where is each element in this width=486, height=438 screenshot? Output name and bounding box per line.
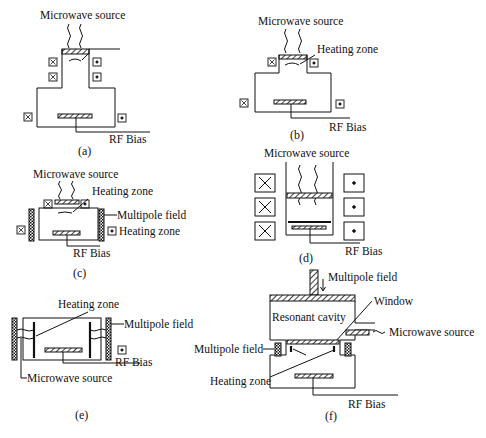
- panel-d: Microwave source RF Bias (d): [255, 147, 383, 265]
- window-plate: [287, 193, 332, 198]
- microwave-wave-icon: [315, 165, 318, 205]
- multipole-magnet: [29, 209, 34, 241]
- multipole-magnet: [106, 318, 111, 360]
- coil-in-icon: [17, 226, 25, 234]
- substrate-electrode: [295, 374, 333, 378]
- coil-out-icon: [310, 59, 318, 67]
- microwave-source-label: Microwave source: [264, 147, 349, 159]
- pointer-line: [36, 312, 88, 336]
- heating-arc: [285, 63, 299, 65]
- coil-in-icon: [255, 174, 275, 240]
- microwave-wave-icon: [299, 165, 302, 205]
- coil-in-icon: [49, 58, 57, 66]
- coil-in-icon: [49, 73, 57, 81]
- heating-zone-label: Heating zone: [58, 298, 119, 311]
- rf-bias-label: RF Bias: [115, 356, 153, 368]
- multipole-magnet: [275, 343, 281, 356]
- microwave-wave-icon: [80, 24, 83, 48]
- microwave-source-label: Microwave source: [27, 372, 112, 384]
- diagram-figure: Microwave source RF Bias (a) Microwave s…: [0, 0, 486, 438]
- substrate-electrode: [58, 114, 92, 118]
- coil-out-icon: [108, 227, 116, 235]
- panel-e: Heating zone Multipole field RF Bias Mic…: [12, 298, 194, 422]
- microwave-wave-icon: [17, 329, 34, 339]
- window-plate: [62, 49, 89, 54]
- multipole-magnet: [12, 318, 17, 360]
- microwave-wave-icon: [285, 29, 288, 53]
- substrate-electrode: [292, 226, 326, 229]
- multipole-magnet: [345, 343, 351, 356]
- window-plate: [279, 55, 307, 59]
- coil-in-icon: [24, 113, 32, 121]
- multipole-magnet: [99, 209, 104, 241]
- panel-caption: (d): [299, 251, 313, 265]
- multipole-field-label: Multipole field: [117, 209, 187, 222]
- panel-caption: (c): [73, 266, 86, 280]
- panel-caption: (b): [290, 128, 304, 142]
- substrate-electrode: [274, 100, 306, 104]
- panel-caption: (a): [78, 144, 91, 158]
- bias-lead: [76, 118, 150, 132]
- diagram-canvas: Microwave source RF Bias (a) Microwave s…: [0, 0, 486, 438]
- microwave-source-label: Microwave source: [40, 9, 125, 21]
- microwave-source-label: Microwave source: [33, 168, 118, 180]
- coil-out-icon: [93, 58, 101, 66]
- microwave-wave-icon: [59, 181, 62, 199]
- arrow-down-icon: [321, 279, 326, 291]
- heating-arc: [69, 59, 81, 61]
- top-plate: [270, 295, 355, 301]
- rf-bias-label: RF Bias: [109, 133, 147, 145]
- coil-out-icon: [344, 174, 364, 240]
- panel-caption: (e): [75, 408, 88, 422]
- coil-out-icon: [336, 100, 344, 108]
- panel-f: Multipole field Window Resonant cavity M…: [194, 270, 474, 423]
- microwave-wave-icon: [373, 331, 385, 334]
- microwave-source-label: Microwave source: [389, 326, 474, 338]
- heating-arc: [58, 212, 72, 213]
- coil-in-icon: [44, 200, 52, 208]
- coil-out-icon: [93, 73, 101, 81]
- panel-a: Microwave source RF Bias (a): [24, 9, 150, 158]
- rf-bias-label: RF Bias: [345, 245, 383, 257]
- rf-bias-label: RF Bias: [329, 121, 367, 133]
- multipole-rod: [310, 270, 318, 295]
- window-label: Window: [374, 295, 414, 307]
- microwave-source-label: Microwave source: [258, 15, 343, 27]
- microwave-wave-icon: [72, 181, 75, 199]
- resonant-cavity-label: Resonant cavity: [272, 311, 346, 324]
- panel-b: Microwave source Heating zone RF Bias (b…: [240, 15, 378, 142]
- window-plate: [287, 340, 339, 344]
- multipole-field-label: Multipole field: [328, 271, 398, 284]
- microwave-wave-icon: [90, 329, 106, 339]
- microwave-antenna: [346, 330, 369, 335]
- window-plate: [55, 200, 79, 204]
- rf-bias-label: RF Bias: [348, 398, 386, 410]
- coil-in-icon: [240, 99, 248, 107]
- multipole-field-label: Multipole field: [194, 343, 264, 356]
- microwave-wave-icon: [68, 24, 71, 48]
- panel-c: Microwave source Heating zone Multipole …: [17, 168, 187, 280]
- coil-out-icon: [118, 346, 126, 354]
- coil-out-icon: [118, 114, 126, 122]
- heating-zone-label: Heating zone: [210, 375, 271, 388]
- substrate-electrode: [53, 231, 80, 235]
- panel-caption: (f): [325, 409, 337, 423]
- heating-zone-label: Heating zone: [119, 225, 180, 238]
- substrate-electrode: [45, 348, 82, 352]
- coil-in-icon: [268, 58, 276, 66]
- heating-zone-label: Heating zone: [317, 43, 378, 56]
- multipole-field-label: Multipole field: [124, 318, 194, 331]
- heating-zone-label: Heating zone: [92, 185, 153, 198]
- microwave-wave-icon: [299, 29, 302, 53]
- rf-bias-label: RF Bias: [73, 247, 111, 259]
